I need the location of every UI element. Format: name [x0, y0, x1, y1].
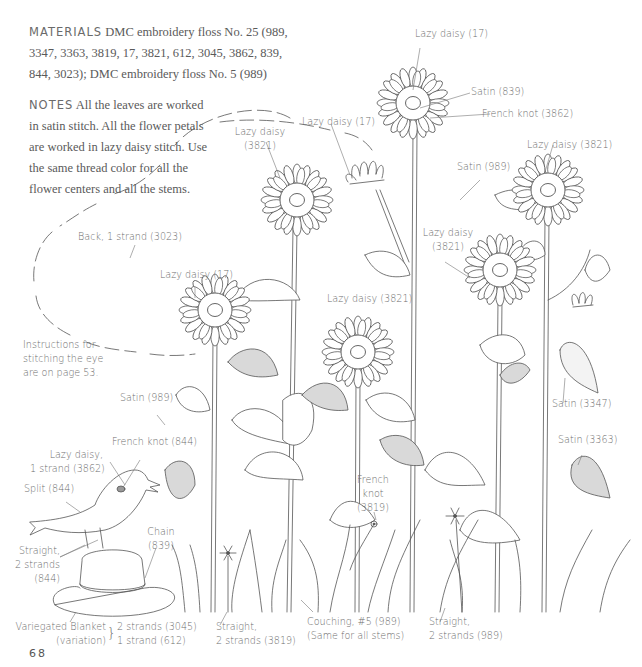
label-satin-989-left: Satin (989): [120, 391, 173, 405]
label-blanket-strands: 2 strands (3045) 1 strand (612): [117, 620, 197, 648]
materials-line-2: 3347, 3363, 3819, 17, 3821, 612, 3045, 3…: [29, 43, 349, 64]
page-number: 68: [29, 647, 47, 660]
label-right-tall-flower: Lazy daisy (3821): [527, 138, 612, 152]
label-hat-chain: Chain (839): [141, 525, 181, 553]
label-back-stitch: Back, 1 strand (3023): [78, 230, 182, 244]
label-top-flower-knot: French knot (3862): [482, 107, 573, 121]
notes-line-1: All the leaves are worked: [76, 98, 204, 112]
materials-line-1: DMC embroidery floss No. 25 (989,: [105, 25, 287, 39]
label-straight-3819: Straight, 2 strands (3819): [216, 620, 296, 648]
label-blanket-brace: }: [107, 619, 116, 647]
label-top-flower-satin: Satin (839): [471, 85, 524, 99]
label-left-tall-flower: Lazy daisy (3821): [230, 125, 290, 153]
label-bird-knot: French knot (844): [112, 435, 197, 449]
label-bird-eye: Lazy daisy, 1 strand (3862): [30, 448, 103, 476]
label-bud-petals: Lazy daisy (17): [302, 115, 375, 129]
label-satin-3347: Satin (3347): [552, 397, 611, 411]
label-bird-split: Split (844): [24, 482, 74, 496]
label-couching: Couching, #5 (989) (Same for all stems): [307, 615, 404, 643]
label-blanket-stitch: Variegated Blanket (variation): [10, 620, 106, 648]
label-satin-989-top: Satin (989): [457, 160, 510, 174]
notes-heading: NOTES: [29, 98, 73, 112]
materials-line-3: 844, 3023); DMC embroidery floss No. 5 (…: [29, 64, 349, 85]
label-top-flower-petals: Lazy daisy (17): [415, 27, 488, 41]
materials-heading: MATERIALS: [29, 25, 102, 39]
label-bird-legs: Straight, 2 strands (844): [10, 544, 60, 586]
label-left-flower-petals: Lazy daisy (17): [160, 268, 233, 282]
label-center-flower-petals: Lazy daisy (3821): [327, 292, 412, 306]
notes-line-5: flower centers and all the stems.: [29, 179, 269, 200]
materials-block: MATERIALS DMC embroidery floss No. 25 (9…: [29, 22, 349, 85]
label-french-knot-3819: French knot (3819): [353, 473, 393, 515]
notes-line-4: the same thread color for all the: [29, 158, 269, 179]
label-straight-989: Straight, 2 strands (989): [429, 615, 503, 643]
eye-instructions-note: Instructions for stitching the eye are o…: [23, 338, 103, 380]
label-satin-3363: Satin (3363): [558, 433, 617, 447]
label-right-mid-flower: Lazy daisy (3821): [418, 226, 478, 254]
